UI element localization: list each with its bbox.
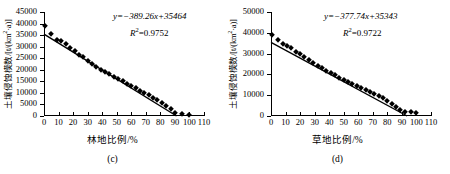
regression-equation-d: y=−377.74x+35343 <box>324 10 397 23</box>
regression-equation-c: y=−389.26x+35464 <box>113 10 186 23</box>
y-axis-tick-label-c: 25000 <box>16 52 37 63</box>
x-axis-title-c: 林地比例/% <box>0 134 225 146</box>
y-axis-title-c: 土壤侵蚀模数/[t/(km2·a)] <box>0 8 11 120</box>
y-axis-tick-label-c: 20000 <box>16 64 37 75</box>
y-axis-tick-label-d: 30000 <box>243 48 264 59</box>
y-axis-tick-label-c: 5000 <box>20 98 37 109</box>
regression-line-c <box>44 12 204 116</box>
y-axis-tick-label-c: 10000 <box>16 87 37 98</box>
r-squared-c: R2=0.9752 <box>130 23 169 40</box>
y-axis-tick-label-d: 20000 <box>243 68 264 79</box>
y-axis-tick-label-c: 40000 <box>16 18 37 29</box>
y-axis-tick-label-d: 40000 <box>243 27 264 38</box>
y-axis-title-d: 土壤侵蚀模数/[t/(km2·a)] <box>225 8 236 120</box>
y-axis-tick-label-c: 35000 <box>16 29 37 40</box>
y-axis-tick-label-d: 10000 <box>243 89 264 100</box>
r-squared-d: R2=0.9722 <box>343 23 382 40</box>
y-axis-tick-label-c: 15000 <box>16 75 37 86</box>
x-axis-title-d: 草地比例/% <box>225 134 450 146</box>
y-axis-tick-label-d: 50000 <box>243 6 264 17</box>
x-axis-tick-label-d: 110 <box>416 117 446 128</box>
chart-panel-d: 土壤侵蚀模数/[t/(km2·a)] 010000200003000040000… <box>225 0 450 174</box>
x-axis-tick-d: 110 <box>431 112 432 116</box>
chart-panel-c: 土壤侵蚀模数/[t/(km2·a)] 050001000015000200002… <box>0 0 225 174</box>
plot-area-c: 0500010000150002000025000300003500040000… <box>44 12 204 116</box>
subfigure-caption-c: (c) <box>0 153 225 165</box>
y-axis-tick-label-c: 45000 <box>16 6 37 17</box>
y-axis-tick-label-c: 30000 <box>16 41 37 52</box>
figure-container: 土壤侵蚀模数/[t/(km2·a)] 050001000015000200002… <box>0 0 450 174</box>
subfigure-caption-d: (d) <box>225 153 450 165</box>
x-axis-tick-label-c: 110 <box>189 117 219 128</box>
x-axis-tick-c: 110 <box>204 112 205 116</box>
